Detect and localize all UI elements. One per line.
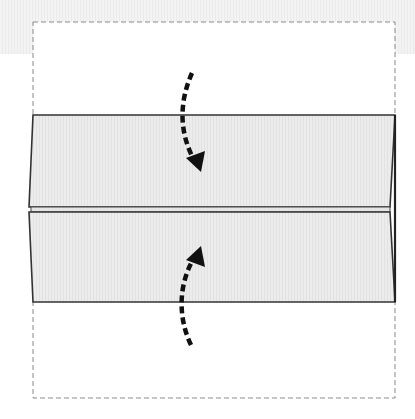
top-flap-panel bbox=[29, 115, 395, 207]
origami-fold-diagram bbox=[0, 0, 415, 419]
bottom-flap-panel bbox=[29, 212, 395, 302]
